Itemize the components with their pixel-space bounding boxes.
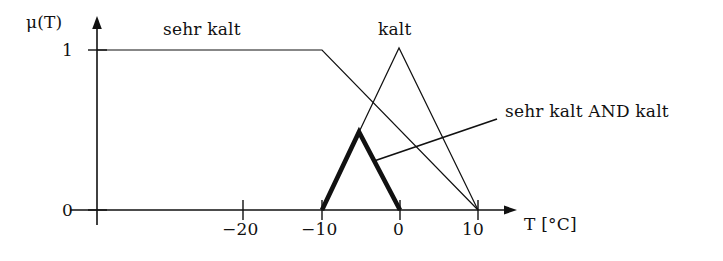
y-tick-label-0: 0: [62, 200, 73, 220]
curve-label-kalt: kalt: [378, 19, 412, 39]
curve-label-sehr-kalt: sehr kalt: [163, 19, 241, 39]
curve-sehr-kalt-and-kalt: [322, 132, 400, 210]
y-axis-label: μ(T): [26, 12, 62, 32]
x-tick-label-10: 10: [462, 219, 484, 239]
annotation-leader-line: [374, 119, 497, 161]
x-tick-label-minus10: −10: [301, 219, 337, 239]
x-axis: [70, 206, 517, 215]
x-axis-label: T [°C]: [524, 214, 577, 234]
fuzzy-membership-diagram: [0, 0, 723, 261]
x-tick-label-0: 0: [393, 219, 404, 239]
annotation-label-and: sehr kalt AND kalt: [505, 101, 669, 121]
curve-sehr-kalt: [97, 50, 478, 210]
y-tick-label-1: 1: [62, 40, 73, 60]
y-axis: [92, 16, 102, 225]
x-tick-label-minus20: −20: [222, 219, 258, 239]
